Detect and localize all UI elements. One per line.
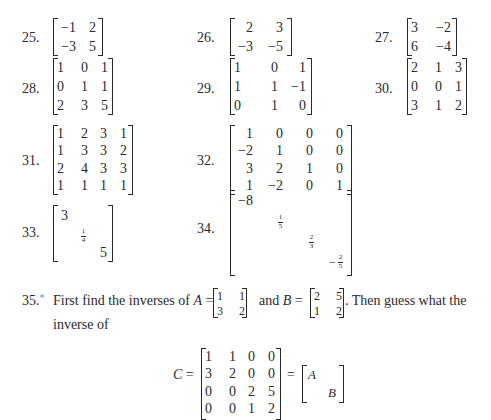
cell: 1	[234, 77, 246, 96]
cell: 0	[234, 96, 246, 115]
denominator: 4	[82, 237, 86, 244]
cell: 1	[283, 160, 313, 178]
cell: 0	[411, 77, 423, 96]
cell: 2	[57, 160, 69, 178]
cell: 1	[57, 125, 69, 143]
exercise-26-number: 26.	[197, 31, 215, 45]
exercise-25-number: 25.	[22, 31, 40, 45]
cell: 1	[423, 96, 442, 115]
exercise-31-number: 31.	[22, 154, 40, 168]
cell: 1	[69, 77, 88, 96]
cell: 3	[107, 160, 127, 178]
cell: 1	[246, 96, 278, 115]
cell: 2	[326, 303, 342, 318]
equals: =	[295, 293, 303, 308]
exercise-30-number: 30.	[375, 82, 393, 96]
cell: 0	[283, 143, 313, 161]
exercise-35-number: 35.*	[22, 294, 45, 308]
denominator: 3	[310, 243, 314, 250]
cell: −4	[423, 37, 451, 56]
exercise-35-text-1: First find the inverses of A =	[53, 294, 213, 308]
matrix-C-label: C =	[173, 368, 194, 382]
cell: 2	[236, 383, 255, 401]
cell: 0	[217, 383, 236, 401]
cell: 0	[205, 401, 217, 419]
matrix-A-label: A	[193, 293, 202, 308]
exercise-35-text-line2: inverse of	[53, 318, 109, 332]
cell: 1	[253, 143, 283, 161]
cell: 5	[255, 383, 275, 401]
cell: 0	[313, 143, 343, 161]
cell: 1	[107, 125, 127, 143]
cell: 1	[217, 348, 236, 366]
cell: 2	[314, 288, 326, 303]
cell: −3	[54, 37, 76, 56]
cell: 2	[217, 366, 236, 384]
cell: 3	[88, 160, 107, 178]
cell: 0	[69, 58, 88, 77]
cell: 1	[57, 58, 69, 77]
diag-entry-1: −8	[238, 194, 253, 208]
denominator: 5	[279, 223, 283, 230]
exercise-25-matrix: −1 2 −3 5	[53, 18, 103, 56]
numerator: 2	[310, 234, 314, 241]
cell: 0	[313, 125, 343, 143]
cell: 0	[278, 96, 306, 115]
cell: 1	[205, 348, 217, 366]
matrix-B-label: B	[283, 293, 292, 308]
exercise-33-matrix: 3 14 5	[53, 205, 113, 262]
cell: 3	[69, 143, 88, 161]
exercise-34-number: 34.	[197, 222, 215, 236]
exercise-29-number: 29.	[197, 82, 215, 96]
exercise-26-matrix: 2 3 −3 −5	[230, 18, 292, 56]
cell: 3	[231, 160, 253, 178]
cell: 0	[423, 77, 442, 96]
exercise-35-text-2: . Then guess what the	[345, 294, 466, 308]
cell: 1	[88, 178, 107, 196]
cell: 1	[217, 288, 229, 303]
cell: 0	[217, 401, 236, 419]
diag-entry-2-fraction: 14	[81, 228, 86, 244]
cell: 1	[88, 77, 108, 96]
cell: 0	[205, 383, 217, 401]
exercise-27-number: 27.	[375, 31, 393, 45]
C-label: C	[173, 367, 182, 382]
numerator: 1	[279, 214, 283, 221]
cell: 0	[57, 77, 69, 96]
cell: 2	[255, 401, 275, 419]
cell: 3	[253, 18, 283, 37]
cell: 2	[231, 18, 253, 37]
cell: 6	[411, 37, 423, 56]
block-A: A	[308, 368, 316, 381]
exercise-34-matrix: −8 15 23 − 25	[230, 190, 352, 276]
number: 35.	[22, 293, 40, 308]
cell: 2	[411, 58, 423, 77]
text: First find the inverses of	[53, 293, 190, 308]
diag-entry-3: 5	[100, 246, 107, 260]
cell: 1	[57, 178, 69, 196]
cell: 3	[69, 96, 88, 115]
cell: 5	[326, 288, 342, 303]
asterisk-marker: *	[40, 292, 45, 303]
exercise-29-matrix: 1 0 1 1 1 −1 0 1 0	[230, 58, 312, 115]
cell: 0	[236, 348, 255, 366]
cell: 5	[88, 96, 108, 115]
cell: 0	[246, 58, 278, 77]
exercise-30-matrix: 2 1 3 0 0 1 3 1 2	[407, 58, 467, 115]
cell: 2	[107, 143, 127, 161]
exercise-27-matrix: 3 −2 6 −4	[407, 18, 457, 56]
cell: −3	[231, 37, 253, 56]
cell: 2	[442, 96, 462, 115]
diag-entry-3-fraction: 23	[309, 234, 314, 250]
cell: 1	[234, 58, 246, 77]
cell: 1	[88, 58, 108, 77]
cell: 1	[278, 58, 306, 77]
exercise-28-matrix: 1 0 1 0 1 1 2 3 5	[53, 58, 113, 115]
matrix-A: 1 1 3 2	[213, 288, 247, 318]
cell: 2	[253, 160, 283, 178]
cell: −1	[278, 77, 306, 96]
exercise-31-matrix: 1 2 3 1 1 3 3 2 2 4 3 3 1 1 1 1	[53, 125, 133, 195]
cell: 3	[411, 18, 423, 37]
equals-sign: =	[287, 368, 295, 382]
exercise-33-number: 33.	[22, 226, 40, 240]
